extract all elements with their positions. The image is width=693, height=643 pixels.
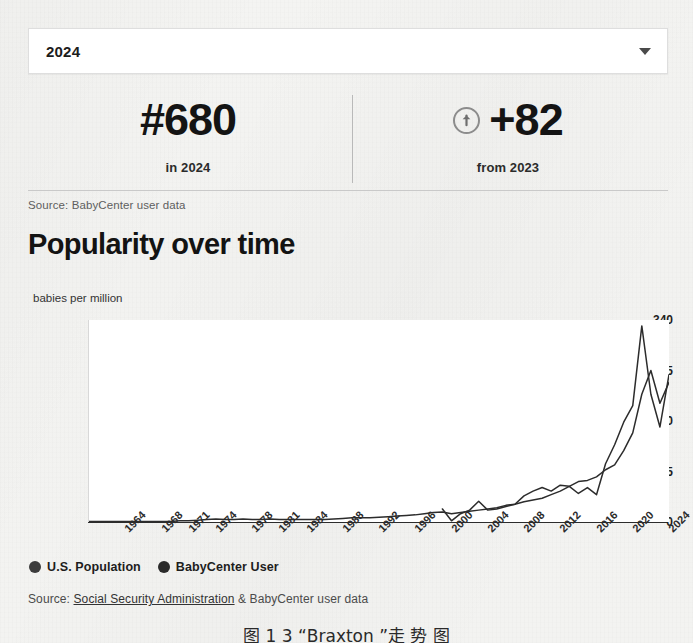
stat-change: +82 from 2023 <box>348 92 668 188</box>
figure-caption: 图 1 3 “Braxton ”走 势 图 <box>0 622 693 643</box>
source-top: Source: BabyCenter user data <box>28 199 186 211</box>
source-bottom-suffix: & BabyCenter user data <box>235 592 369 606</box>
stat-change-value: +82 <box>489 92 562 148</box>
chart-series-svg <box>89 320 669 522</box>
source-bottom: Source: Social Security Administration &… <box>28 592 368 606</box>
legend-label: U.S. Population <box>47 560 141 574</box>
stat-change-caption: from 2023 <box>477 160 539 175</box>
series-line-0 <box>89 371 669 522</box>
stats-row: #680 in 2024 +82 from 2023 <box>28 92 668 188</box>
page-title: Popularity over time <box>28 228 295 261</box>
y-axis-title: babies per million <box>33 292 123 304</box>
stat-rank-main: #680 <box>140 92 236 148</box>
chart-plot-area <box>88 320 669 522</box>
legend-dot-icon <box>29 561 41 573</box>
legend-dot-icon <box>158 561 170 573</box>
stat-rank-caption: in 2024 <box>166 160 211 175</box>
stat-rank-value: #680 <box>140 92 236 148</box>
chart-legend: U.S. PopulationBabyCenter User <box>29 560 279 574</box>
social-security-administration-link[interactable]: Social Security Administration <box>74 592 235 606</box>
legend-item-0[interactable]: U.S. Population <box>29 560 141 574</box>
page-background: 2024 #680 in 2024 +82 from 2023 <box>0 0 693 643</box>
arrow-up-circle-icon <box>453 107 480 134</box>
year-select[interactable]: 2024 <box>28 28 668 74</box>
stats-divider <box>352 95 353 183</box>
source-bottom-prefix: Source: <box>28 592 74 606</box>
legend-label: BabyCenter User <box>176 560 279 574</box>
stat-change-main: +82 <box>453 92 562 148</box>
chevron-down-icon <box>639 48 651 55</box>
legend-item-1[interactable]: BabyCenter User <box>158 560 279 574</box>
stats-bottom-rule <box>28 190 668 191</box>
year-select-value: 2024 <box>46 43 80 60</box>
popularity-chart: 340255170850 <box>28 310 673 532</box>
stat-rank: #680 in 2024 <box>28 92 348 188</box>
